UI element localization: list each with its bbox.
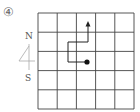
- arrow-head-icon: [86, 21, 91, 27]
- route-path: [68, 26, 88, 62]
- compass-icon: [19, 44, 35, 70]
- start-dot: [84, 59, 89, 64]
- diagram: [0, 0, 140, 112]
